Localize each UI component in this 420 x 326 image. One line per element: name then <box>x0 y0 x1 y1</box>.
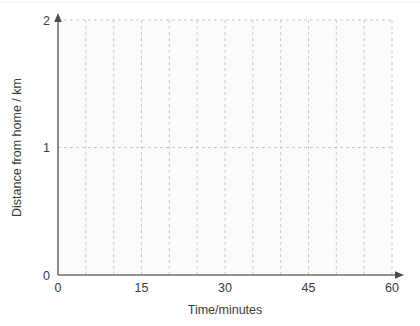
x-axis-title: Time/minutes <box>188 303 263 317</box>
x-tick-label-0: 0 <box>55 281 62 295</box>
x-tick-label-60: 60 <box>385 281 399 295</box>
y-tick-label-1: 1 <box>43 141 50 155</box>
x-tick-label-30: 30 <box>218 281 232 295</box>
y-tick-label-0: 0 <box>43 269 50 283</box>
y-axis-title: Distance from home / km <box>10 78 24 217</box>
y-tick-label-2: 2 <box>43 14 50 28</box>
distance-time-graph: 0 15 30 45 60 0 1 2 Time/minutes Distanc… <box>0 0 420 326</box>
x-tick-label-15: 15 <box>135 281 149 295</box>
x-tick-label-45: 45 <box>302 281 316 295</box>
